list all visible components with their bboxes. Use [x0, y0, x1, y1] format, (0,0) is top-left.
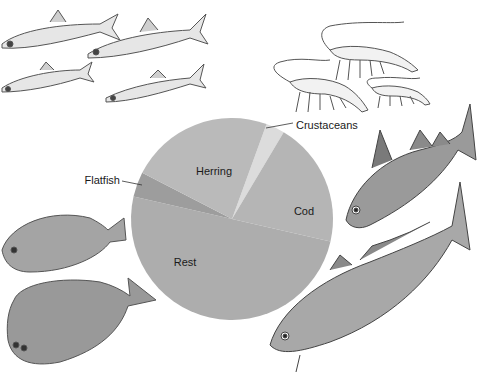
flatfish-icon	[2, 215, 126, 272]
crustaceans-illustration	[274, 22, 430, 112]
fish-catch-pie-figure: CrustaceansCodRestFlatfishHerring	[0, 0, 478, 374]
herring-illustration	[2, 10, 208, 102]
slice-label-cod: Cod	[294, 205, 314, 217]
herring-fish-icon	[2, 10, 120, 48]
slice-label-flatfish: Flatfish	[85, 174, 120, 186]
slice-label-crustaceans: Crustaceans	[296, 119, 358, 131]
pie-chart	[131, 118, 333, 320]
flatfish-icon	[7, 278, 156, 364]
slice-label-herring: Herring	[196, 165, 232, 177]
shrimp-icon	[322, 22, 418, 80]
shrimp-icon	[274, 59, 368, 112]
slice-label-rest: Rest	[174, 256, 197, 268]
herring-fish-icon	[106, 64, 206, 102]
shrimp-icon	[367, 77, 430, 108]
herring-fish-icon	[2, 62, 94, 92]
